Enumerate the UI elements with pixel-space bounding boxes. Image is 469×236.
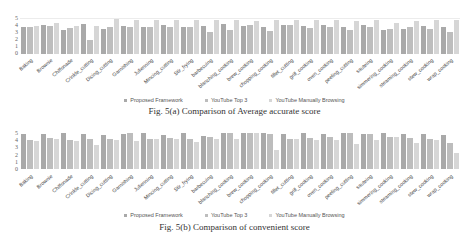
- y-axis: 012345: [8, 18, 18, 53]
- bar-group: [280, 133, 300, 169]
- bar: [281, 134, 286, 169]
- bar-group: [320, 19, 340, 54]
- y-tick-label: 4: [15, 137, 18, 143]
- bar-group: [80, 133, 100, 169]
- bar: [47, 138, 52, 169]
- bar-group: [340, 19, 360, 54]
- x-tick: wrap_cooking: [440, 173, 460, 203]
- bar-group: [280, 19, 300, 54]
- bar: [421, 134, 426, 169]
- bar: [221, 24, 226, 54]
- y-axis: 012345: [8, 133, 18, 169]
- bar: [21, 27, 26, 54]
- bar: [287, 139, 292, 169]
- bar: [367, 27, 372, 54]
- chart-b: 012345 BakingBrownieChiffonadeCrinkle_cu…: [0, 118, 469, 236]
- bar: [374, 140, 379, 169]
- bar: [447, 143, 452, 169]
- bar-group: [240, 133, 260, 169]
- y-tick-label: 1: [15, 159, 18, 165]
- bar: [354, 21, 359, 54]
- bar-group: [40, 19, 60, 54]
- bar: [34, 26, 39, 54]
- bar: [374, 20, 379, 54]
- bar: [347, 30, 352, 55]
- x-axis-labels: BakingBrownieChiffonadeCrinkle_cuttingDi…: [20, 173, 460, 203]
- bar: [341, 27, 346, 54]
- bar: [414, 143, 419, 169]
- chart-a: 012345 BakingBrownieChiffonadeCrinkle_cu…: [0, 0, 469, 118]
- bar: [221, 133, 226, 169]
- legend-swatch: [205, 99, 208, 102]
- bar: [247, 25, 252, 54]
- bar: [134, 20, 139, 54]
- bar: [321, 134, 326, 169]
- bar: [354, 144, 359, 169]
- legend-item-top3: YouTube Top 3: [205, 212, 248, 218]
- bar: [407, 27, 412, 54]
- bar: [294, 20, 299, 54]
- caption: Fig. 5(b) Comparison of convenient score: [0, 222, 469, 232]
- x-tick-label: Baking: [18, 57, 34, 72]
- bar: [394, 137, 399, 169]
- y-tick-label: 2: [15, 152, 18, 158]
- bar: [434, 140, 439, 169]
- y-tick-label: 3: [15, 29, 18, 35]
- bar-group: [160, 133, 180, 169]
- bar: [67, 28, 72, 54]
- bar: [454, 153, 459, 169]
- bar: [194, 20, 199, 54]
- bar: [154, 20, 159, 54]
- y-tick-label: 5: [15, 130, 18, 136]
- bar-group: [420, 19, 440, 54]
- bar-group: [400, 133, 420, 169]
- bar-group: [300, 133, 320, 169]
- bar: [321, 25, 326, 54]
- bar: [161, 25, 166, 54]
- bar: [427, 139, 432, 169]
- bar: [61, 133, 66, 169]
- bar: [127, 133, 132, 169]
- bar: [41, 25, 46, 54]
- bar: [447, 32, 452, 54]
- bar: [234, 139, 239, 169]
- bar-group: [360, 133, 380, 169]
- bar: [181, 133, 186, 169]
- bar-group: [80, 19, 100, 54]
- y-tick-label: 5: [15, 15, 18, 21]
- bar: [387, 29, 392, 54]
- bar-group: [180, 133, 200, 169]
- bar: [194, 142, 199, 169]
- bar: [247, 133, 252, 169]
- bar: [174, 139, 179, 169]
- bar: [254, 133, 259, 169]
- bar: [267, 134, 272, 169]
- caption: Fig. 5(a) Comparison of Average accurate…: [0, 106, 469, 116]
- bar-group: [200, 133, 220, 169]
- bar: [427, 29, 432, 54]
- bar: [87, 40, 92, 54]
- bar-group: [260, 133, 280, 169]
- bar: [241, 133, 246, 169]
- bar-groups: [20, 19, 460, 54]
- bar-group: [240, 19, 260, 54]
- bar: [147, 27, 152, 54]
- y-tick-label: 0: [15, 166, 18, 172]
- bar-group: [420, 133, 440, 169]
- bar-group: [60, 19, 80, 54]
- bar: [81, 24, 86, 54]
- bar: [34, 141, 39, 169]
- y-tick-label: 0: [15, 50, 18, 56]
- bar: [267, 31, 272, 54]
- bar: [74, 141, 79, 169]
- bar: [287, 25, 292, 54]
- bar-group: [320, 133, 340, 169]
- bar: [261, 133, 266, 169]
- bar: [154, 139, 159, 169]
- legend-swatch: [124, 99, 127, 102]
- bar: [94, 26, 99, 54]
- bar: [94, 145, 99, 169]
- bar: [181, 27, 186, 54]
- bar: [341, 133, 346, 169]
- bar: [214, 20, 219, 54]
